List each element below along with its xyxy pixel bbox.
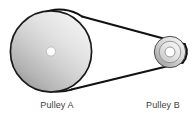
pulley-diagram-canvas — [0, 0, 194, 117]
pulley-a — [10, 11, 91, 92]
pulley-a-hub-hole — [46, 47, 55, 56]
pulley-diagram: Pulley A Pulley B — [0, 0, 194, 117]
pulley-b-hub-hole — [165, 47, 175, 57]
pulley-b — [154, 36, 185, 67]
